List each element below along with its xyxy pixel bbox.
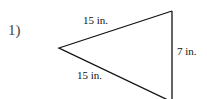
side-label-right: 7 in.	[177, 45, 197, 57]
side-label-top: 15 in.	[83, 14, 108, 26]
side-label-bottom: 15 in.	[77, 69, 102, 81]
